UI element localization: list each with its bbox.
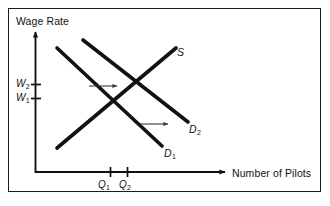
y-tick-label-w1: W1 — [16, 93, 30, 103]
supply-demand-figure: Wage Rate Number of Pilots W2 W1 Q1 Q2 S… — [0, 0, 330, 206]
x-tick-label-q2-sub: 2 — [127, 184, 131, 191]
demand-curve-d2-label: D2 — [189, 124, 201, 135]
demand-curve-d1-label: D1 — [164, 148, 176, 159]
x-tick-label-q2: Q2 — [119, 180, 131, 190]
demand-curve-d2-label-sub: 2 — [197, 129, 201, 136]
y-tick-label-w2-sub: 2 — [25, 83, 29, 90]
x-axis-title: Number of Pilots — [232, 168, 311, 179]
x-tick-label-q2-text: Q — [119, 179, 127, 190]
demand-curve-d1-label-text: D — [164, 147, 172, 159]
y-tick-label-w2: W2 — [16, 79, 30, 89]
x-tick-label-q1-text: Q — [98, 179, 106, 190]
x-tick-label-q1-sub: 1 — [106, 184, 110, 191]
demand-curve-d1-label-sub: 1 — [172, 153, 176, 160]
demand-curve-d2-label-text: D — [189, 123, 197, 135]
y-axis-title: Wage Rate — [16, 16, 69, 27]
supply-curve-label: S — [177, 47, 184, 58]
y-tick-label-w1-sub: 1 — [25, 97, 29, 104]
supply-curve-label-text: S — [177, 46, 184, 58]
x-tick-label-q1: Q1 — [98, 180, 110, 190]
